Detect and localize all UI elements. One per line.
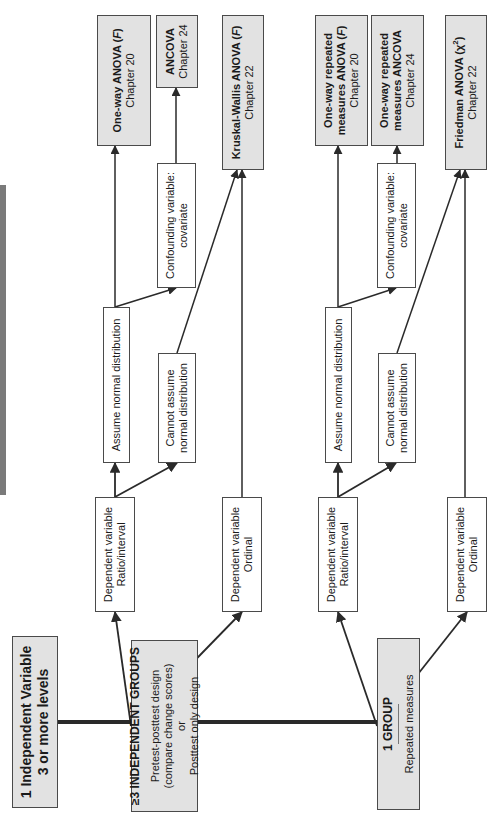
g2-assume-normal-box: Assume normal distribution: [325, 307, 352, 463]
g1-dv-ratio-box: Dependent variable Ratio/interval: [95, 497, 135, 612]
g1-cannot-assume-box: Cannot assume normal distribution: [158, 353, 196, 463]
g2-confounding-box: Confounding variable: covariate: [377, 163, 416, 288]
kruskal-wallis-box: Kruskal-Wallis ANOVA (F) Chapter 22: [222, 15, 264, 170]
kruskal-wallis-title: Kruskal-Wallis ANOVA (F): [230, 26, 243, 160]
root-line1: 1 Independent Variable: [18, 646, 35, 799]
g1-assume-label: Assume normal distribution: [110, 319, 123, 452]
rm-anova-line1: One-way repeated: [322, 33, 335, 128]
independent-groups-box: ≥3 INDEPENDENT GROUPS Pretest-posttest d…: [131, 640, 198, 812]
friedman-title: Friedman ANOVA (χ2): [453, 37, 466, 149]
rm-anova-line2: measures ANOVA (F): [335, 26, 348, 136]
group1-line: (compare change scores): [162, 664, 175, 789]
divider: [398, 704, 399, 744]
group2-line: Repeated measures: [403, 674, 416, 773]
statistical-test-flowchart: 1 Independent Variable 3 or more levels …: [0, 0, 497, 830]
group1-line: or: [175, 721, 188, 731]
rm-ancova-chapter: Chapter 24: [404, 53, 417, 107]
g1-dv-ordinal-line1: Dependent variable: [229, 507, 242, 602]
g1-assume-normal-box: Assume normal distribution: [103, 307, 130, 463]
g1-dv-ordinal-box: Dependent variable Ordinal: [222, 497, 262, 612]
friedman-chapter: Chapter 22: [466, 65, 479, 119]
g2-dv-ordinal-line1: Dependent variable: [454, 507, 467, 602]
rm-ancova-box: One-way repeated measures ANCOVA Chapter…: [371, 15, 424, 146]
rm-anova-box: One-way repeated measures ANOVA (F) Chap…: [315, 15, 368, 146]
g1-cannot-line2: normal distribution: [177, 363, 190, 453]
group1-line: Posttest only design: [188, 677, 201, 775]
g1-cannot-line1: Cannot assume: [164, 369, 177, 446]
g2-dv-ratio-line2: Ratio/interval: [338, 522, 351, 586]
g2-cannot-assume-box: Cannot assume normal distribution: [378, 353, 416, 463]
group1-title: ≥3 INDEPENDENT GROUPS: [129, 647, 142, 805]
one-way-anova-title: One-way ANOVA (F): [111, 28, 124, 132]
g2-dv-ratio-line1: Dependent variable: [325, 507, 338, 602]
g2-cannot-line1: Cannot assume: [384, 369, 397, 446]
g2-dv-ordinal-box: Dependent variable Ordinal: [447, 497, 487, 612]
one-way-anova-chapter: Chapter 20: [124, 53, 137, 107]
root-independent-variable-box: 1 Independent Variable 3 or more levels: [12, 636, 58, 808]
ancova-box: ANCOVA Chapter 24: [156, 15, 198, 88]
group1-line: Pretest-posttest design: [149, 670, 162, 783]
g1-confounding-line1: Confounding variable:: [164, 172, 177, 279]
g1-dv-ratio-line2: Ratio/interval: [115, 522, 128, 586]
rm-ancova-line1: One-way repeated: [378, 33, 391, 128]
rm-ancova-line2: measures ANCOVA: [391, 30, 404, 131]
g1-confounding-box: Confounding variable: covariate: [157, 163, 196, 288]
g2-dv-ordinal-line2: Ordinal: [467, 537, 480, 572]
one-group-box: 1 GROUP Repeated measures: [377, 638, 420, 810]
rm-anova-chapter: Chapter 20: [348, 53, 361, 107]
ancova-chapter: Chapter 24: [177, 24, 190, 78]
ancova-title: ANCOVA: [164, 28, 177, 75]
root-line2: 3 or more levels: [35, 669, 52, 776]
group2-title: 1 GROUP: [382, 697, 395, 751]
one-way-anova-box: One-way ANOVA (F) Chapter 20: [97, 15, 151, 146]
friedman-anova-box: Friedman ANOVA (χ2) Chapter 22: [445, 15, 487, 170]
g2-confounding-line1: Confounding variable:: [384, 172, 397, 279]
g2-cannot-line2: normal distribution: [397, 363, 410, 453]
g2-assume-label: Assume normal distribution: [332, 319, 345, 452]
g1-dv-ratio-line1: Dependent variable: [102, 507, 115, 602]
kruskal-wallis-chapter: Chapter 22: [243, 65, 256, 119]
g1-confounding-line2: covariate: [177, 203, 190, 248]
g1-dv-ordinal-line2: Ordinal: [242, 537, 255, 572]
g2-confounding-line2: covariate: [397, 203, 410, 248]
g2-dv-ratio-box: Dependent variable Ratio/interval: [318, 497, 358, 612]
